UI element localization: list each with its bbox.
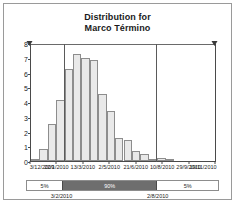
histogram-bar [39,149,47,161]
histogram-bars [31,44,215,161]
histogram-plot: 012345678 [30,44,215,162]
histogram-bar [132,151,140,161]
x-tick-label: 21/6/2010 [123,164,147,170]
certainty-boundary-label: 3/2/2010 [51,193,72,200]
forecast-chart-panel: Distribution for Marco Término 012345678… [3,3,232,200]
x-axis-ticks: 3/12/200922/1/201013/3/20102/5/201021/6/… [30,164,215,174]
left-edge-line [30,44,31,162]
histogram-bar [65,69,73,161]
histogram-bar [124,140,132,161]
title-line-2: Marco Término [4,23,231,34]
x-tick-label: 10/8/2010 [150,164,174,170]
x-tick-label: 19/11/2010 [189,164,216,170]
certainty-band[interactable]: 5%90%5% [26,180,219,191]
certainty-grabber-handle[interactable] [212,41,218,46]
certainty-line-lower-bound[interactable] [64,44,65,162]
histogram-bar [90,60,98,161]
certainty-grabber-handle[interactable] [27,41,33,46]
x-tick-label: 13/3/2010 [71,164,95,170]
x-tick-label: 2/5/2010 [99,164,120,170]
x-tick-label: 22/1/2010 [44,164,68,170]
histogram-bar [115,138,123,161]
certainty-segment-center[interactable]: 90% [62,181,157,190]
certainty-boundary-label: 2/8/2010 [147,193,168,200]
histogram-bar [31,159,39,161]
certainty-segment-right-tail[interactable]: 5% [157,181,218,190]
histogram-bar [166,159,174,161]
histogram-bar [48,124,56,161]
certainty-line-upper-bound[interactable] [156,44,157,162]
page-title: Distribution for Marco Término [4,12,231,34]
histogram-bar [107,111,115,161]
histogram-bar [81,58,89,161]
histogram-bar [73,54,81,161]
title-line-1: Distribution for [4,12,231,23]
histogram-bar [140,154,148,161]
right-edge-line [215,44,216,162]
certainty-band-labels: 3/2/20102/8/2010 [26,193,219,202]
certainty-segment-left-tail[interactable]: 5% [27,181,62,190]
histogram-bar [98,94,106,161]
